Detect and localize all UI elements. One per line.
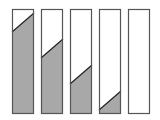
container-bar-4 xyxy=(99,9,121,114)
container-bar-3 xyxy=(70,9,92,114)
container-bar-1 xyxy=(12,9,34,114)
fill-level-diagram xyxy=(0,0,160,120)
container-bar-2 xyxy=(41,9,63,114)
bar-background xyxy=(128,9,150,114)
container-bar-5 xyxy=(128,9,150,114)
